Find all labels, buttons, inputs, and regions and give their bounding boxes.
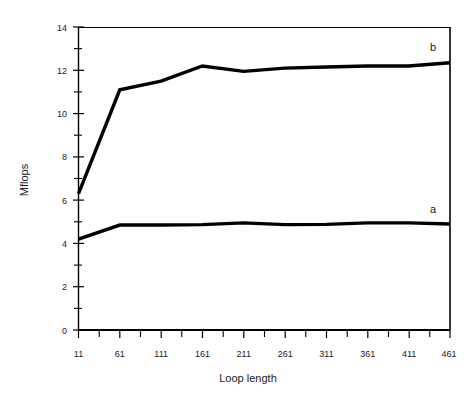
x-tick-label-2: 111 bbox=[154, 349, 168, 359]
line-chart-svg: 0 2 4 6 8 10 12 14 bbox=[0, 0, 469, 396]
x-axis-title: Loop length bbox=[219, 372, 277, 384]
x-tick-label-4: 211 bbox=[237, 349, 251, 359]
x-tick-label-1: 61 bbox=[115, 349, 125, 359]
x-tick-label-9: 461 bbox=[441, 349, 456, 359]
x-tick-label-3: 161 bbox=[195, 349, 210, 359]
x-tick-label-5: 261 bbox=[278, 349, 293, 359]
y-tick-label-2: 2 bbox=[62, 282, 67, 292]
y-axis-title: Mflops bbox=[18, 163, 30, 196]
y-tick-label-0: 0 bbox=[62, 326, 67, 336]
series-label-a: a bbox=[430, 203, 437, 215]
y-tick-label-10: 10 bbox=[57, 109, 67, 119]
x-tick-label-0: 11 bbox=[74, 349, 83, 359]
y-tick-label-12: 12 bbox=[57, 66, 67, 76]
y-tick-label-14: 14 bbox=[57, 23, 67, 33]
series-label-b: b bbox=[430, 41, 436, 53]
x-tick-label-7: 361 bbox=[360, 349, 375, 359]
chart-background bbox=[0, 0, 469, 396]
y-tick-label-6: 6 bbox=[62, 196, 67, 206]
y-tick-label-8: 8 bbox=[62, 152, 67, 162]
y-tick-label-4: 4 bbox=[62, 239, 67, 249]
x-tick-label-6: 311 bbox=[319, 349, 333, 359]
x-tick-label-8: 411 bbox=[402, 349, 416, 359]
